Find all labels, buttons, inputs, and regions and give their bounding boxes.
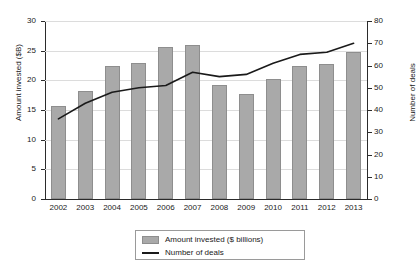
y-tick-label-right: 50 [374, 84, 404, 92]
y-tick-label-right: 40 [374, 106, 404, 114]
y-tick-label-left: 20 [6, 76, 36, 84]
legend-line-icon [142, 252, 159, 254]
axis-frame-bottom [45, 199, 368, 200]
chart-figure: Amount invested ($B) Number of deals 051… [0, 0, 420, 271]
y-tick-label-right: 60 [374, 62, 404, 70]
y-tick-left [41, 199, 45, 200]
plot-area [45, 21, 367, 199]
y-tick-right [368, 43, 372, 44]
y-tick-label-left: 0 [6, 195, 36, 203]
line-series [45, 21, 367, 199]
y-tick-label-left: 5 [6, 165, 36, 173]
y-tick-right [368, 110, 372, 111]
y-tick-right [368, 21, 372, 22]
y-tick-label-right: 70 [374, 39, 404, 47]
legend-swatch-icon [142, 236, 159, 244]
y-tick-label-left: 25 [6, 47, 36, 55]
y-tick-right [368, 132, 372, 133]
y-tick-label-right: 20 [374, 151, 404, 159]
y-tick-label-right: 0 [374, 195, 404, 203]
y-tick-label-left: 30 [6, 17, 36, 25]
y-tick-label-right: 80 [374, 17, 404, 25]
y-tick-right [368, 66, 372, 67]
y-tick-label-left: 10 [6, 136, 36, 144]
y-tick-right [368, 88, 372, 89]
legend-label-amount-invested: Amount invested ($ billions) [165, 235, 263, 244]
legend-item-number-of-deals: Number of deals [142, 247, 298, 258]
y-axis-right-title: Number of deals [408, 18, 417, 168]
y-tick-right [368, 155, 372, 156]
y-tick-label-right: 10 [374, 173, 404, 181]
y-tick-right [368, 177, 372, 178]
legend: Amount invested ($ billions) Number of d… [135, 230, 305, 260]
y-tick-right [368, 199, 372, 200]
y-tick-label-right: 30 [374, 128, 404, 136]
legend-label-number-of-deals: Number of deals [165, 248, 224, 257]
y-tick-label-left: 15 [6, 106, 36, 114]
legend-item-amount-invested: Amount invested ($ billions) [142, 234, 298, 245]
x-tick-label: 2013 [337, 203, 371, 212]
